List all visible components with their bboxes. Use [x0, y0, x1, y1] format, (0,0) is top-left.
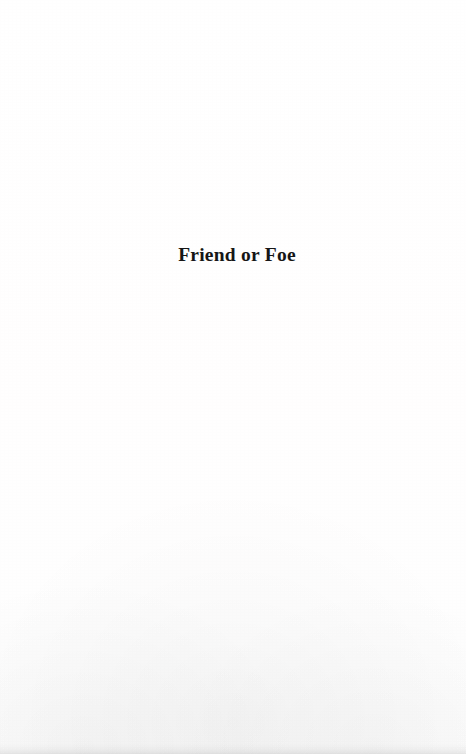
scan-bottom-edge-shadow [0, 744, 466, 754]
page-title: Friend or Foe [0, 244, 466, 265]
paper-grain-texture [0, 0, 466, 754]
scanned-page: Friend or Foe [0, 0, 466, 754]
